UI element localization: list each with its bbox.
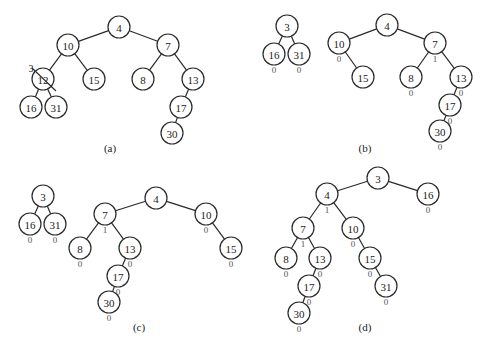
node-label: 3 xyxy=(40,191,46,203)
node-label: 30 xyxy=(167,128,179,140)
edge xyxy=(375,268,380,277)
node-label: 13 xyxy=(188,74,200,86)
tree-node: 100 xyxy=(342,217,364,249)
tree-node: 130 xyxy=(450,66,472,98)
null-path-length: 0 xyxy=(409,88,414,98)
node-label: 31 xyxy=(51,102,62,114)
null-path-length: 0 xyxy=(128,259,133,269)
edge xyxy=(35,89,38,97)
null-path-length: 1 xyxy=(433,54,438,64)
edge xyxy=(397,29,424,39)
null-path-length: 0 xyxy=(318,269,323,279)
edge xyxy=(334,203,347,220)
null-path-length: 1 xyxy=(325,205,330,215)
node-label: 16 xyxy=(423,189,435,201)
tree-node: 4 xyxy=(376,14,398,36)
node-label: 3 xyxy=(375,173,381,185)
null-path-length: 1 xyxy=(301,239,306,249)
node-label: 30 xyxy=(294,308,306,320)
panel-caption: (a) xyxy=(104,142,117,155)
node-label: 8 xyxy=(77,243,83,255)
node-label: 15 xyxy=(365,253,377,265)
null-path-length: 0 xyxy=(229,259,234,269)
node-label: 31 xyxy=(294,49,305,61)
edge xyxy=(303,296,305,302)
panel-caption: (d) xyxy=(359,321,372,334)
tree-node: 100 xyxy=(195,203,217,235)
tree-node: 71 xyxy=(424,32,446,64)
null-path-length: 0 xyxy=(368,269,373,279)
null-path-length: 0 xyxy=(297,65,302,75)
null-path-length: 0 xyxy=(78,259,83,269)
edge xyxy=(313,268,316,276)
tree-node: 130 xyxy=(309,247,331,279)
node-label: 17 xyxy=(304,281,316,293)
node-label: 16 xyxy=(26,102,38,114)
tree-node: 300 xyxy=(288,302,310,334)
edge xyxy=(87,223,99,239)
node-label: 10 xyxy=(201,209,213,221)
figure-canvas: 41071231581316311730(a)31603104100711580… xyxy=(0,0,490,350)
tree-node: 310 xyxy=(375,275,397,307)
node-label: 13 xyxy=(456,72,468,84)
node-label: 17 xyxy=(176,102,188,114)
node-label: 16 xyxy=(25,219,37,231)
tree-node: 7 xyxy=(157,34,179,56)
null-path-length: 1 xyxy=(103,225,108,235)
edge xyxy=(279,36,283,44)
null-path-length: 0 xyxy=(459,88,464,98)
null-path-length: 0 xyxy=(28,235,33,245)
node-label: 4 xyxy=(153,193,159,205)
node-label: 4 xyxy=(324,189,330,201)
node-label: 31 xyxy=(50,219,61,231)
null-path-length: 0 xyxy=(53,235,58,245)
node-label: 13 xyxy=(315,253,327,265)
node-label: 16 xyxy=(269,49,281,61)
tree-node: 150 xyxy=(220,237,242,269)
tree-node: 130 xyxy=(119,237,141,269)
tree-node: 15 xyxy=(83,68,105,90)
tree-node: 10 xyxy=(57,34,79,56)
tree-node: 3 xyxy=(32,185,54,207)
edge xyxy=(337,181,367,190)
node-label: 7 xyxy=(102,209,108,221)
tree-node: 3 xyxy=(276,15,298,37)
node-label: 8 xyxy=(140,74,146,86)
edge xyxy=(454,87,457,95)
panel-d: 3411607110080130150170310300(d) xyxy=(275,167,439,334)
null-path-length: 0 xyxy=(351,239,356,249)
edge xyxy=(115,201,145,210)
tree-node: 30 xyxy=(161,122,183,144)
node-label: 3 xyxy=(284,21,290,33)
tree-node: 4 xyxy=(108,16,130,38)
node-label: 7 xyxy=(432,38,438,50)
tree-node: 4 xyxy=(145,187,167,209)
edge xyxy=(308,238,314,249)
tree-node: 80 xyxy=(275,247,297,279)
edge xyxy=(417,52,428,68)
node-label: 15 xyxy=(89,74,101,86)
tree-node: 80 xyxy=(69,237,91,269)
node-label: 30 xyxy=(435,126,447,138)
node-label: 15 xyxy=(358,72,370,84)
tree-node: 17 xyxy=(170,96,192,118)
tree-node: 16 xyxy=(20,96,42,118)
node-label: 8 xyxy=(283,253,289,265)
tree-node: 8 xyxy=(132,68,154,90)
leftist-heap-diagram: 41071231581316311730(a)31603104100711580… xyxy=(0,0,490,350)
tree-node: 41 xyxy=(316,183,338,215)
edge xyxy=(112,223,124,239)
edge xyxy=(185,89,188,97)
edge xyxy=(442,52,455,69)
tree-node: 300 xyxy=(429,120,451,152)
edge xyxy=(35,206,39,214)
null-path-length: 0 xyxy=(337,54,342,64)
tree-node: 3 xyxy=(367,167,389,189)
edge xyxy=(291,238,297,249)
tree-node: 71 xyxy=(94,203,116,235)
edge xyxy=(75,54,88,71)
edge xyxy=(47,206,50,214)
edge xyxy=(309,203,320,219)
tree-node: 160 xyxy=(19,213,41,245)
panels-group: 41071231581316311730(a)31603104100711580… xyxy=(19,14,472,334)
